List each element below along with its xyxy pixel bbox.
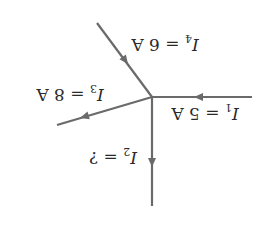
wire-i1 [152, 93, 252, 101]
arrow-i2-icon [148, 158, 156, 167]
wire-i2 [148, 97, 156, 206]
arrow-i1-icon [194, 93, 203, 101]
label-i4: I4 = 6 A [131, 32, 200, 55]
svg-text:I2 = ?: I2 = ? [89, 145, 138, 168]
svg-text:I3 = 8 A: I3 = 8 A [36, 82, 105, 105]
svg-text:I1 = 5 A: I1 = 5 A [171, 101, 240, 124]
wire-i4 [97, 23, 152, 97]
label-i2: I2 = ? [89, 145, 138, 168]
label-i3: I3 = 8 A [36, 82, 105, 105]
junction-diagram: I4 = 6 A I3 = 8 A I1 = 5 A I2 = ? [0, 0, 276, 234]
svg-text:I4 = 6 A: I4 = 6 A [131, 32, 200, 55]
label-i1: I1 = 5 A [171, 101, 240, 124]
arrow-i3-icon [79, 112, 90, 122]
